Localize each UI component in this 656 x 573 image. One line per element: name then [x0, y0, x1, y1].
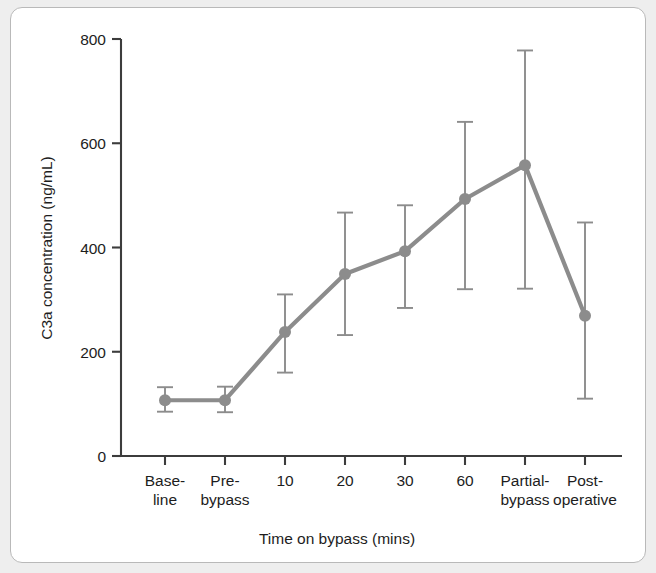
data-point-marker: [459, 193, 471, 205]
x-tick-label: 20: [336, 472, 354, 489]
y-tick-label: 400: [80, 240, 106, 257]
x-tick-label-line2: bypass: [500, 491, 549, 508]
data-point-marker: [579, 310, 591, 322]
data-point-marker: [219, 394, 231, 406]
chart-plot-area: 0200400600800Base-linePre-bypass10203060…: [11, 8, 647, 564]
data-point-marker: [399, 245, 411, 257]
x-tick-label: 10: [276, 472, 294, 489]
series-line-c3a: [165, 165, 585, 400]
x-tick-label: Base-: [145, 472, 186, 489]
x-tick-label: Post-: [567, 472, 603, 489]
x-axis-title: Time on bypass (mins): [259, 530, 415, 547]
x-tick-label: 30: [396, 472, 414, 489]
figure-panel: 0200400600800Base-linePre-bypass10203060…: [10, 7, 646, 563]
data-point-marker: [339, 268, 351, 280]
x-tick-label-line2: bypass: [200, 491, 249, 508]
y-tick-label: 0: [97, 448, 106, 465]
data-point-marker: [159, 394, 171, 406]
x-tick-label: Partial-: [500, 472, 549, 489]
x-tick-label-line2: line: [153, 491, 177, 508]
x-tick-label: Pre-: [210, 472, 239, 489]
y-axis-title: C3a concentration (ng/mL): [38, 156, 55, 340]
x-tick-label-line2: operative: [553, 491, 617, 508]
data-point-marker: [279, 326, 291, 338]
data-point-marker: [519, 159, 531, 171]
y-tick-label: 600: [80, 135, 106, 152]
y-tick-label: 800: [80, 31, 106, 48]
y-tick-label: 200: [80, 344, 106, 361]
line-chart-with-error-bars: 0200400600800Base-linePre-bypass10203060…: [11, 8, 647, 564]
x-tick-label: 60: [456, 472, 474, 489]
